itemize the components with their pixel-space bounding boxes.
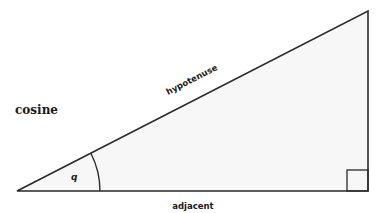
angle-label: q (71, 172, 78, 182)
triangle-shape (17, 11, 368, 191)
right-triangle-diagram: cosine hypotenuse adjacent q (0, 0, 377, 213)
adjacent-label: adjacent (172, 201, 213, 211)
diagram-title: cosine (15, 103, 58, 117)
